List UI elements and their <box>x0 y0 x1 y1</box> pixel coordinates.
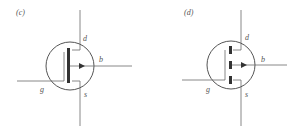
figure-d: (d) d b g s <box>182 8 287 126</box>
label-gate-d: g <box>206 85 210 94</box>
caption-d: (d) <box>184 8 194 17</box>
label-drain-d: d <box>245 33 250 42</box>
label-gate-c: g <box>40 85 44 94</box>
label-source-d: s <box>245 90 248 99</box>
channel-segment-drain <box>229 46 232 54</box>
label-drain-c: d <box>83 34 88 43</box>
channel-segment-source <box>229 76 232 84</box>
transistor-diagram: (c) d b g s (d) <box>0 0 298 138</box>
body-arrow-icon <box>79 63 85 69</box>
body-arrow-icon <box>241 62 247 68</box>
figure-c: (c) d b g s <box>16 8 132 126</box>
channel-bar <box>67 48 70 83</box>
label-body-c: b <box>99 55 103 64</box>
caption-c: (c) <box>16 8 25 17</box>
channel-segment-body <box>229 61 232 69</box>
label-source-c: s <box>84 90 87 99</box>
label-body-d: b <box>261 55 265 64</box>
